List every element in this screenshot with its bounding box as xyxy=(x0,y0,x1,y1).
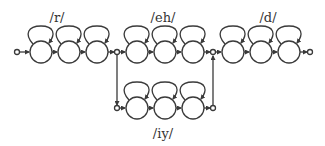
network-edges xyxy=(15,26,313,119)
iy-exit-node xyxy=(211,106,216,111)
split-node xyxy=(115,50,120,55)
iy-entry-node xyxy=(115,106,120,111)
phone-label-r: /r/ xyxy=(50,10,66,25)
state-iy-2 xyxy=(154,97,176,119)
state-iy-3 xyxy=(182,97,204,119)
join-node xyxy=(211,50,216,55)
hmm-network-diagram: /r/ /eh/ /d/ /iy/ xyxy=(0,0,325,146)
state-r-2 xyxy=(58,41,80,63)
phone-label-d: /d/ xyxy=(259,10,277,25)
state-d-3 xyxy=(278,41,300,63)
state-d-1 xyxy=(222,41,244,63)
phone-d-states xyxy=(220,26,307,63)
phone-label-eh: /eh/ xyxy=(151,10,176,25)
state-iy-1 xyxy=(126,97,148,119)
state-eh-1 xyxy=(126,41,148,63)
phone-eh-states xyxy=(124,26,210,63)
phone-label-iy: /iy/ xyxy=(153,126,174,141)
state-r-3 xyxy=(86,41,108,63)
state-eh-2 xyxy=(154,41,176,63)
end-node xyxy=(308,50,313,55)
state-eh-3 xyxy=(182,41,204,63)
phone-iy-states xyxy=(124,82,210,119)
phone-r-states xyxy=(28,26,114,63)
start-node xyxy=(15,50,20,55)
state-d-2 xyxy=(250,41,272,63)
state-r-1 xyxy=(30,41,52,63)
